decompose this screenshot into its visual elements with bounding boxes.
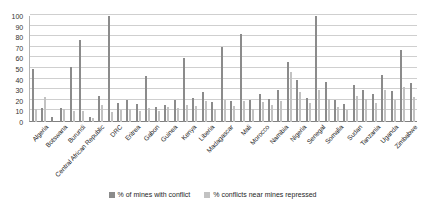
bar-series-0 — [192, 98, 194, 122]
legend-item[interactable]: % conflicts near mines repressed — [204, 191, 316, 198]
bar-series-1 — [73, 111, 75, 122]
bar-series-0 — [79, 40, 81, 122]
x-tick-label: Mali — [240, 124, 253, 137]
bar-group — [68, 16, 77, 122]
bar-group — [87, 16, 96, 122]
bar-series-1 — [101, 105, 103, 122]
bar-series-0 — [60, 108, 62, 122]
x-tick-label: Namibia — [269, 124, 290, 146]
bar-series-1 — [63, 109, 65, 122]
legend-item[interactable]: % of mines with conflict — [109, 191, 191, 198]
bar-series-1 — [177, 108, 179, 122]
bar-group — [172, 16, 181, 122]
bar-series-0 — [315, 16, 317, 122]
bar-group — [77, 16, 86, 122]
y-tick-label: 20 — [15, 97, 23, 104]
y-tick-label: 80 — [15, 34, 23, 41]
bar-series-0 — [41, 108, 43, 122]
bar-group — [58, 16, 67, 122]
bar-series-0 — [353, 85, 355, 122]
bar-group — [190, 16, 199, 122]
bar-group — [124, 16, 133, 122]
bar-series-1 — [337, 107, 339, 122]
bar-group — [257, 16, 266, 122]
bar-series-0 — [174, 100, 176, 122]
bar-series-0 — [372, 94, 374, 122]
bar-series-1 — [195, 106, 197, 122]
bar-series-0 — [202, 92, 204, 122]
bar-group — [370, 16, 379, 122]
bar-series-1 — [346, 110, 348, 122]
bar-series-1 — [186, 105, 188, 122]
bar-series-0 — [325, 82, 327, 122]
bar-group — [219, 16, 228, 122]
bar-series-0 — [70, 67, 72, 122]
bar-series-1 — [214, 109, 216, 122]
bar-series-0 — [306, 98, 308, 122]
bar-series-1 — [148, 108, 150, 122]
bar-series-1 — [290, 72, 292, 122]
bar-series-0 — [259, 94, 261, 122]
bar-series-1 — [365, 99, 367, 122]
x-tick-label: DRC — [109, 124, 123, 139]
bar-series-1 — [394, 100, 396, 122]
bar-series-0 — [155, 107, 157, 122]
bar-group — [360, 16, 369, 122]
bar-series-1 — [271, 105, 273, 122]
bar-series-1 — [280, 101, 282, 122]
bar-group — [341, 16, 350, 122]
bar-series-1 — [299, 92, 301, 122]
bar-series-0 — [249, 100, 251, 122]
bar-group — [266, 16, 275, 122]
bar-series-1 — [44, 97, 46, 122]
bar-group — [285, 16, 294, 122]
bar-series-0 — [183, 58, 185, 122]
bar-series-0 — [145, 76, 147, 122]
bar-group — [323, 16, 332, 122]
bar-series-1 — [413, 97, 415, 122]
bar-series-0 — [108, 16, 110, 122]
bar-group — [304, 16, 313, 122]
bar-group — [332, 16, 341, 122]
y-tick-label: 60 — [15, 55, 23, 62]
y-tick-label: 90 — [15, 23, 23, 30]
bar-group — [49, 16, 58, 122]
bar-series-1 — [375, 103, 377, 122]
bar-series-1 — [158, 111, 160, 122]
bar-series-0 — [296, 80, 298, 122]
bar-series-1 — [224, 100, 226, 122]
bar-series-1 — [328, 99, 330, 122]
bar-series-0 — [287, 62, 289, 122]
bar-series-0 — [410, 83, 412, 122]
gridline — [30, 14, 417, 15]
bar-group — [181, 16, 190, 122]
bar-series-1 — [167, 107, 169, 122]
x-tick-label: Somalia — [324, 124, 345, 145]
bar-series-0 — [381, 75, 383, 122]
bar-series-1 — [233, 106, 235, 122]
y-tick-label: 10 — [15, 108, 23, 115]
bar-series-0 — [343, 104, 345, 122]
y-tick-label: 100 — [12, 13, 23, 20]
bar-series-1 — [129, 109, 131, 122]
y-tick-label: 50 — [15, 66, 23, 73]
bar-series-0 — [391, 91, 393, 122]
bar-series-0 — [126, 100, 128, 122]
bar-group — [96, 16, 105, 122]
bar-group — [143, 16, 152, 122]
bar-group — [351, 16, 360, 122]
bar-group — [162, 16, 171, 122]
bar-group — [228, 16, 237, 122]
bar-series-0 — [277, 90, 279, 122]
bar-series-1 — [309, 103, 311, 122]
x-tick-label: Senegal — [306, 124, 327, 146]
bar-series-1 — [243, 101, 245, 122]
bar-series-1 — [139, 111, 141, 122]
bar-series-1 — [384, 90, 386, 122]
bar-group — [30, 16, 39, 122]
bar-series-0 — [164, 105, 166, 122]
bar-series-1 — [92, 118, 94, 122]
bar-series-1 — [262, 102, 264, 122]
x-tick-label: Guinea — [160, 124, 179, 144]
legend-label: % of mines with conflict — [118, 191, 191, 198]
